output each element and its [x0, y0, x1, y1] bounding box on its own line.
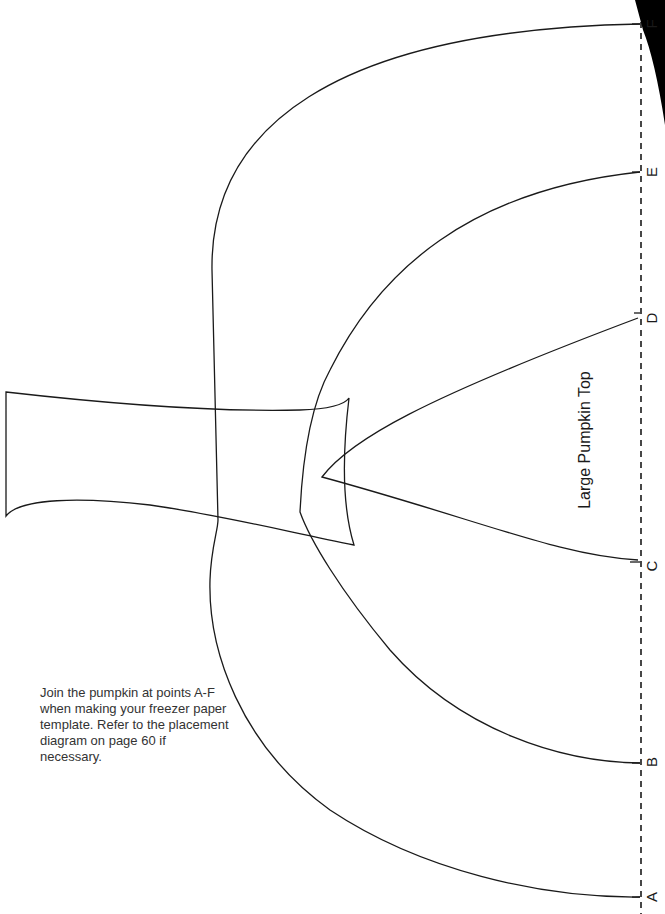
point-label-c: C [643, 556, 661, 576]
pattern-diagram [0, 0, 665, 914]
piece-title: Large Pumpkin Top [575, 365, 595, 515]
point-label-e: E [643, 162, 661, 182]
instructions-text: Join the pumpkin at points A-F when maki… [40, 685, 230, 765]
point-label-f: F [643, 14, 661, 34]
point-label-d: D [643, 308, 661, 328]
stem-shape [6, 392, 354, 545]
point-label-a: A [643, 887, 661, 907]
point-label-b: B [643, 752, 661, 772]
